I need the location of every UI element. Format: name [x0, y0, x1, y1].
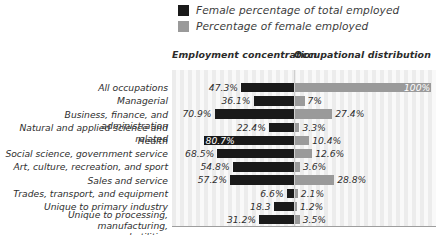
category-label: Art, culture, recreation, and sport	[0, 161, 168, 172]
bar-pct-of-female-employed	[295, 123, 299, 132]
bar-row: 70.9%27.4%	[172, 108, 436, 121]
category-label: Managerial	[0, 95, 168, 106]
bar-female-pct-of-total-employed	[215, 109, 294, 118]
bar-female-pct-of-total-employed	[254, 96, 294, 105]
category-label: Trades, transport, and equipment	[0, 188, 168, 199]
bar-value-label-right: 2.1%	[301, 188, 324, 199]
bar-value-label-right: 10.4%	[312, 135, 341, 146]
bar-female-pct-of-total-employed	[230, 175, 294, 184]
bar-female-pct-of-total-employed	[241, 83, 294, 92]
chart-body: All occupationsManagerialBusiness, finan…	[0, 70, 441, 228]
category-label: Sales and service	[0, 175, 168, 186]
bar-pct-of-female-employed	[295, 175, 334, 184]
bar-value-label-right: 3.3%	[302, 122, 325, 133]
bar-pct-of-female-employed	[295, 202, 297, 211]
bar-value-label-left: 54.8%	[200, 161, 229, 172]
bar-pct-of-female-employed	[295, 136, 309, 145]
column-headers: Employment concentration Occupational di…	[0, 49, 441, 63]
bar-value-label-left: 31.2%	[227, 214, 256, 225]
baseline-rule	[172, 226, 436, 227]
bar-row: 68.5%12.6%	[172, 148, 436, 161]
bar-row: 18.31.2%	[172, 200, 436, 213]
bar-value-label-left: 57.2%	[198, 174, 227, 185]
bar-value-label-left: 36.1%	[221, 95, 250, 106]
bar-value-label-right: 3.5%	[303, 214, 326, 225]
category-label: All occupations	[0, 82, 168, 93]
bar-value-label-left: 80.7%	[206, 135, 235, 146]
chart-figure: Female percentage of total employedPerce…	[0, 0, 441, 235]
category-label: Social science, government service	[0, 148, 168, 159]
bar-value-label-left: 18.3	[250, 201, 270, 212]
bar-pct-of-female-employed	[295, 162, 300, 171]
bar-row: 47.3%100%	[172, 82, 436, 95]
category-label: Health	[0, 135, 168, 146]
bar-row: 57.2%28.8%	[172, 174, 436, 187]
bar-pct-of-female-employed	[295, 109, 332, 118]
bar-value-label-right: 27.4%	[335, 108, 364, 119]
bar-female-pct-of-total-employed	[233, 162, 294, 171]
legend-swatch-icon	[178, 5, 189, 16]
bar-pct-of-female-employed	[295, 215, 300, 224]
bar-row: 6.6%2.1%	[172, 187, 436, 200]
bar-value-label-right: 7%	[308, 95, 323, 106]
bar-row: 31.2%3.5%	[172, 214, 436, 227]
bar-female-pct-of-total-employed	[269, 123, 294, 132]
bar-value-label-right: 3.6%	[303, 161, 326, 172]
bar-value-label-right: 100%	[404, 82, 430, 93]
bar-value-label-left: 22.4%	[237, 122, 266, 133]
bar-value-label-left: 47.3%	[209, 82, 238, 93]
bar-female-pct-of-total-employed	[287, 189, 294, 198]
bar-value-label-left: 68.5%	[185, 148, 214, 159]
legend-label: Percentage of female employed	[196, 21, 368, 32]
bar-value-label-right: 28.8%	[337, 174, 366, 185]
bar-pct-of-female-employed	[295, 96, 305, 105]
bar-row: 54.8%3.6%	[172, 161, 436, 174]
legend-label: Female percentage of total employed	[196, 5, 399, 16]
bar-pct-of-female-employed	[295, 189, 298, 198]
legend-item-pct_of_female_employed: Percentage of female employed	[178, 19, 438, 34]
legend-swatch-icon	[178, 21, 189, 32]
bar-row: 80.7%10.4%	[172, 134, 436, 147]
bar-value-label-right: 1.2%	[300, 201, 323, 212]
bar-value-label-left: 70.9%	[182, 108, 211, 119]
bar-row: 22.4%3.3%	[172, 121, 436, 134]
legend-item-female_pct_of_total_employed: Female percentage of total employed	[178, 3, 438, 18]
bar-value-label-right: 12.6%	[315, 148, 344, 159]
bar-female-pct-of-total-employed	[274, 202, 294, 211]
bar-female-pct-of-total-employed	[217, 149, 294, 158]
category-label: Unique to processing, manufacturing, and…	[0, 209, 168, 235]
bar-female-pct-of-total-employed	[259, 215, 294, 224]
column-header-occupational-distribution: Occupational distribution	[294, 49, 431, 60]
chart-legend: Female percentage of total employedPerce…	[178, 3, 438, 35]
plot-area: 47.3%100%36.1%7%70.9%27.4%22.4%3.3%80.7%…	[172, 70, 436, 226]
bar-pct-of-female-employed	[295, 149, 312, 158]
bar-row: 36.1%7%	[172, 95, 436, 108]
bar-value-label-left: 6.6%	[260, 188, 283, 199]
